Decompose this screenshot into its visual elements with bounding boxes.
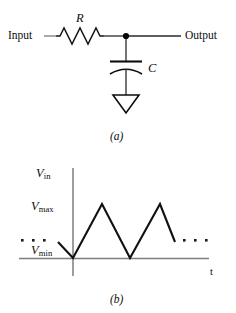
panel-b-plot — [19, 168, 209, 276]
output-label: Output — [185, 30, 217, 42]
resistor-symbol — [56, 28, 104, 44]
waveform-trace — [58, 204, 175, 258]
panel-a-caption: (a) — [110, 131, 123, 143]
figure-graphics — [0, 0, 236, 313]
capacitor-label: C — [148, 62, 156, 75]
x-axis-label: t — [210, 267, 213, 278]
vmin-label-subscript: min — [39, 248, 53, 258]
figure-container: Input Output R C (a) Vin Vmax Vmin t (b) — [0, 0, 236, 313]
resistor-label: R — [76, 12, 84, 25]
vmin-label-symbol: V — [31, 243, 39, 257]
vmax-label-subscript: max — [39, 204, 54, 214]
panel-b-caption: (b) — [110, 294, 123, 306]
ellipsis-right-icon — [183, 239, 208, 242]
ground-symbol-icon — [113, 95, 139, 113]
vmin-label: Vmin — [31, 241, 52, 257]
y-axis-label-symbol: V — [36, 166, 44, 180]
input-label: Input — [8, 30, 32, 42]
junction-node-icon — [123, 33, 129, 39]
vmax-label: Vmax — [31, 197, 54, 213]
y-axis-label-subscript: in — [44, 171, 51, 181]
y-axis-label: Vin — [36, 164, 51, 180]
panel-a-circuit — [44, 28, 181, 113]
vmax-label-symbol: V — [31, 199, 39, 213]
